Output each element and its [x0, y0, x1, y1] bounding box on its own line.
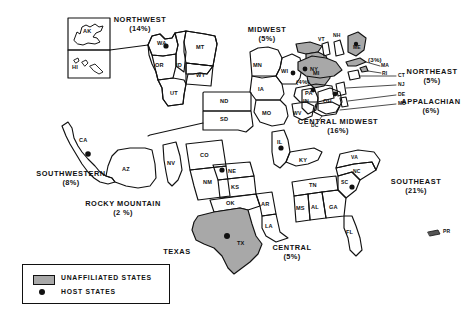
state-label-AR: AR	[261, 201, 269, 207]
hawaii-shape-2	[82, 60, 88, 66]
state-label-RI: RI	[382, 70, 387, 76]
host-dot-NY	[303, 67, 308, 72]
state-IA	[250, 76, 284, 100]
state-label-NY: NY	[310, 66, 318, 72]
state-label-IL: IL	[277, 139, 282, 145]
host-dot-CA	[85, 151, 91, 157]
legend: UNAFFILIATED STATES HOST STATES	[22, 264, 170, 304]
state-label-TN: TN	[309, 182, 317, 188]
region-label-northwest: NORTHWEST(14%)	[96, 16, 184, 33]
legend-label-host: HOST STATES	[61, 288, 116, 295]
state-FL	[344, 216, 362, 256]
ndsd-connector-line	[148, 123, 203, 136]
hawaii-shape-3	[90, 64, 103, 74]
leader-line-NJ	[346, 85, 396, 88]
state-label-ID: ID	[176, 62, 182, 68]
state-label-AK: AK	[83, 28, 91, 34]
state-RI	[360, 66, 368, 72]
inset-connector-line	[110, 45, 148, 50]
state-label-PR: PR	[443, 228, 450, 234]
state-label-DE: DE	[398, 91, 405, 97]
state-label-TX: TX	[237, 240, 245, 246]
state-label-KS: KS	[231, 184, 239, 190]
state-label-OK: OK	[226, 200, 235, 206]
region-label-midwest: MIDWEST(5%)	[232, 26, 302, 43]
state-label-PA: PA	[305, 90, 313, 96]
state-label-WV: WV	[293, 110, 301, 116]
host-dot-WI	[291, 71, 296, 76]
state-label-UT: UT	[170, 90, 178, 96]
state-label-AL: AL	[311, 204, 319, 210]
state-label-NJ: NJ	[398, 81, 405, 87]
region-label-northeast: NORTHEAST(5%)	[396, 68, 468, 85]
host-dot-TX	[224, 233, 230, 239]
territory-PR	[428, 230, 440, 236]
state-TX	[192, 208, 262, 274]
state-label-ND: ND	[220, 98, 228, 104]
state-label-NM: NM	[203, 179, 212, 185]
legend-label-unaffiliated: UNAFFILIATED STATES	[61, 274, 152, 281]
state-label-NH: NH	[333, 32, 341, 38]
state-VA	[336, 150, 380, 170]
state-label-MD: MD	[398, 100, 406, 106]
state-label-CO: CO	[200, 152, 209, 158]
state-label-WI: WI	[281, 68, 288, 74]
state-label-WA: WA	[157, 40, 166, 46]
host-dot-IL	[278, 145, 283, 150]
state-NJ	[336, 82, 346, 96]
state-label-NC: NC	[353, 168, 361, 174]
state-label-MA: MA	[381, 62, 389, 68]
state-label-FL: FL	[346, 229, 353, 235]
host-dot-icon	[39, 289, 45, 295]
state-label-LA: LA	[265, 223, 273, 229]
region-label-central-midwest: CENTRAL MIDWEST(16%)	[284, 118, 392, 135]
state-label-VA: VA	[351, 154, 358, 160]
state-NH	[334, 40, 344, 56]
state-label-WY: WY	[196, 72, 205, 78]
region-label-central: CENTRAL(5%)	[256, 244, 328, 261]
state-label-IA: IA	[258, 86, 264, 92]
leader-line-RI	[368, 71, 381, 73]
state-label-OH: OH	[323, 98, 332, 104]
state-MA	[346, 58, 366, 66]
host-dot-NE	[219, 167, 224, 172]
state-label-IN: IN	[303, 98, 309, 104]
host-dot-SC	[349, 184, 354, 189]
inline-pct-newyork: (4%)	[296, 78, 310, 85]
state-CT	[348, 70, 360, 80]
state-label-MT: MT	[196, 44, 204, 50]
region-label-rocky-mountain: ROCKY MOUNTAIN(2 %)	[68, 200, 178, 217]
state-label-CA: CA	[79, 137, 87, 143]
state-label-OR: OR	[155, 62, 164, 68]
leader-line-DE	[348, 95, 396, 101]
state-label-SC: SC	[341, 179, 348, 185]
unaffiliated-swatch-icon	[33, 275, 55, 285]
state-label-SD: SD	[220, 116, 228, 122]
state-label-NE: NE	[228, 168, 236, 174]
state-label-ME: ME	[353, 44, 361, 50]
state-label-DC: DC	[311, 122, 319, 128]
state-label-MS: MS	[296, 205, 305, 211]
state-label-AZ: AZ	[122, 166, 130, 172]
region-label-texas: TEXAS	[148, 248, 206, 257]
region-label-southeast: SOUTHEAST(21%)	[368, 178, 464, 195]
leader-line-MD	[340, 104, 396, 110]
state-label-MN: MN	[253, 62, 262, 68]
state-label-HI: HI	[72, 64, 78, 70]
hawaii-shape	[74, 58, 79, 63]
inline-pct-maine: (3%)	[368, 56, 382, 63]
state-label-CT: CT	[398, 72, 405, 78]
state-label-KY: KY	[299, 157, 307, 163]
region-label-southwestern: SOUTHWESTERN(8%)	[22, 170, 120, 187]
state-label-MO: MO	[262, 110, 271, 116]
state-label-VT: VT	[318, 36, 325, 42]
state-label-NV: NV	[167, 160, 175, 166]
host-dot-OH	[333, 92, 338, 97]
state-VT	[322, 42, 330, 56]
state-label-GA: GA	[329, 204, 338, 210]
